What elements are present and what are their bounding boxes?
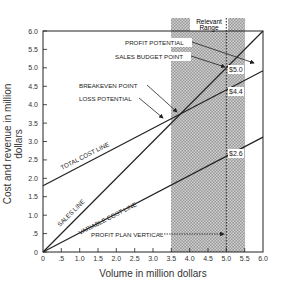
svg-text:.5: .5 [58,255,64,262]
y-axis-label: Cost and revenue in million dollars [2,69,24,219]
x-axis-label: Volume in million dollars [43,268,263,279]
svg-text:5.5: 5.5 [240,255,250,262]
svg-text:1.0: 1.0 [75,255,85,262]
svg-text:.5: .5 [32,230,38,237]
svg-text:$5.0: $5.0 [229,66,243,73]
total-cost-line-label: TOTAL COST LINE [59,140,110,170]
svg-text:2.5: 2.5 [130,255,140,262]
svg-text:6.0: 6.0 [258,255,268,262]
sales-budget-point-label: SALES BUDGET POINT [115,53,183,60]
svg-text:0: 0 [34,249,38,256]
svg-text:4.0: 4.0 [28,101,38,108]
loss-potential-label: LOSS POTENTIAL [79,95,132,102]
svg-text:1.5: 1.5 [28,193,38,200]
sales-line-label: SALES LINE [56,198,86,228]
svg-text:3.5: 3.5 [28,120,38,127]
svg-text:4.0: 4.0 [185,255,195,262]
breakeven-chart: Relevant Range 0 .5 1.0 1.5 2.0 2.5 3.0 … [0,0,284,295]
svg-text:0: 0 [41,255,45,262]
svg-text:3.5: 3.5 [166,255,176,262]
breakeven-point-label: BREAKEVEN POINT [79,82,138,89]
svg-text:6.0: 6.0 [28,28,38,35]
svg-text:2.0: 2.0 [28,175,38,182]
svg-text:1.5: 1.5 [93,255,103,262]
svg-text:$2.6: $2.6 [229,150,243,157]
svg-text:2.0: 2.0 [111,255,121,262]
y-axis: 0 .5 1.0 1.5 2.0 2.5 3.0 3.5 4.0 4.5 5.0… [28,28,47,256]
svg-text:1.0: 1.0 [28,212,38,219]
svg-text:2.5: 2.5 [28,156,38,163]
profit-plan-vertical-label: PROFIT PLAN VERTICAL [91,231,164,238]
svg-text:$4.4: $4.4 [229,88,243,95]
svg-text:3.0: 3.0 [28,138,38,145]
profit-potential-label: PROFIT POTENTIAL [125,39,184,46]
svg-text:5.5: 5.5 [28,46,38,53]
svg-text:3.0: 3.0 [148,255,158,262]
svg-text:5.0: 5.0 [28,64,38,71]
svg-text:4.5: 4.5 [28,83,38,90]
svg-text:5.0: 5.0 [221,255,231,262]
svg-text:4.5: 4.5 [203,255,213,262]
